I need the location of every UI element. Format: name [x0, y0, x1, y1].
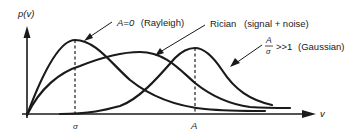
- rayleigh-arrowhead-icon: [84, 33, 93, 41]
- y-axis-arrowhead-icon: [24, 26, 31, 38]
- diagram-canvas: p(v) v σ A A=0 (Rayleigh) Rician (signal…: [0, 0, 353, 136]
- gaussian-label-rest: >>1 (Gaussian): [276, 41, 345, 52]
- x-axis-label: v: [320, 108, 326, 119]
- rayleigh-curve: [27, 40, 265, 115]
- rayleigh-label-main: A=0: [116, 17, 135, 28]
- rician-label: Rician (signal + noise): [210, 18, 309, 29]
- gaussian-label-note: (Gaussian): [298, 41, 344, 52]
- tick-label-sigma: σ: [73, 122, 79, 131]
- rayleigh-label-note: (Rayleigh): [141, 17, 184, 28]
- rician-arrowhead-icon: [155, 48, 164, 56]
- y-axis-label: p(v): [17, 8, 34, 19]
- x-axis-arrowhead-icon: [302, 110, 316, 118]
- gaussian-label: A σ >>1 (Gaussian): [265, 35, 345, 56]
- tick-label-A: A: [190, 120, 197, 131]
- rayleigh-label: A=0 (Rayleigh): [116, 17, 184, 28]
- rician-leader: [155, 25, 205, 56]
- rician-label-main: Rician: [210, 18, 236, 29]
- rician-curve: [27, 52, 290, 115]
- gaussian-label-relation: >>1: [276, 41, 292, 52]
- rayleigh-leader: [84, 22, 112, 41]
- pdf-diagram: p(v) v σ A A=0 (Rayleigh) Rician (signal…: [0, 0, 353, 136]
- gaussian-label-numerator: A: [265, 35, 272, 45]
- gaussian-leader: [230, 45, 262, 67]
- rician-label-note: (signal + noise): [244, 18, 309, 29]
- gaussian-arrowhead-icon: [230, 58, 240, 67]
- gaussian-label-denominator: σ: [266, 47, 271, 56]
